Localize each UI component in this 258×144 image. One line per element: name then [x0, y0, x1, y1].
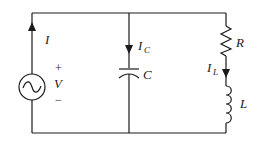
- cap-current-label: I: [137, 38, 143, 53]
- arrow-down-icon: [222, 69, 230, 78]
- inductor-current-label: I: [206, 60, 212, 75]
- arrow-up-icon: [28, 22, 36, 31]
- source-current-label: I: [44, 32, 50, 47]
- cap-current-sub: C: [144, 45, 151, 55]
- inductor-label: L: [239, 96, 247, 111]
- circuit-diagram: I + V − I C C R I L L: [0, 0, 258, 144]
- inductor-current-sub: L: [212, 67, 218, 77]
- voltage-label: V: [54, 76, 64, 91]
- arrow-down-icon: [125, 45, 133, 54]
- plus-sign: +: [55, 61, 62, 75]
- resistor-label: R: [235, 35, 244, 50]
- capacitor-label: C: [143, 67, 152, 82]
- inductor-icon: [226, 86, 231, 123]
- ac-source-icon: [19, 74, 45, 100]
- resistor-icon: [221, 26, 231, 56]
- minus-sign: −: [55, 93, 62, 107]
